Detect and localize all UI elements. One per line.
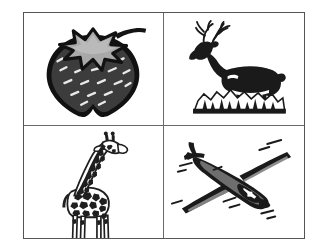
glider-figure bbox=[172, 140, 291, 218]
glider-canopy-window bbox=[247, 191, 252, 196]
giraffe-figure bbox=[62, 131, 127, 238]
cell-deer: Deer bbox=[164, 13, 304, 126]
cell-strawberry: Strawberry bbox=[24, 13, 164, 126]
deer-ear bbox=[210, 41, 219, 47]
deer-tail bbox=[278, 73, 286, 82]
strawberry-stem bbox=[115, 28, 147, 39]
image-canvas: Strawberry bbox=[0, 0, 322, 251]
deer-antlers bbox=[196, 21, 230, 45]
giraffe-ossicone-knob-left bbox=[104, 131, 108, 135]
deer-ground-bar bbox=[193, 109, 286, 114]
deer-illustration bbox=[164, 13, 304, 125]
cell-glider: Glider bbox=[164, 126, 304, 239]
glider-wing-right bbox=[239, 151, 291, 181]
strawberry-illustration bbox=[24, 13, 163, 125]
cell-giraffe: Giraffe bbox=[24, 126, 164, 239]
giraffe-illustration bbox=[24, 126, 163, 239]
giraffe-ossicone-knob-right bbox=[111, 131, 115, 135]
glider-wing-right-highlight bbox=[243, 155, 288, 182]
giraffe-muzzle bbox=[118, 144, 128, 153]
glider-illustration bbox=[164, 126, 304, 239]
giraffe-ossicone-right bbox=[112, 134, 115, 141]
illustration-grid: Strawberry bbox=[23, 12, 305, 239]
